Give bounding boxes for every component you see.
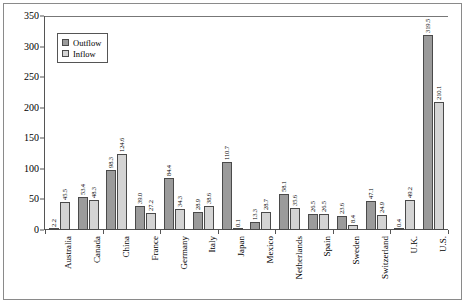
x-axis-category-label: France bbox=[150, 236, 160, 261]
bar-value-label: 47.1 bbox=[367, 188, 374, 199]
bar-chart: 050100150200250300350 2.245.553.448.398.… bbox=[0, 0, 467, 305]
y-axis-tick: 100 bbox=[24, 163, 44, 175]
y-axis-tick: 300 bbox=[24, 41, 44, 53]
bar-value-label: 48.3 bbox=[90, 187, 97, 198]
bar-value-label: 28.7 bbox=[262, 199, 269, 210]
bar-value-label: 110.7 bbox=[223, 146, 230, 160]
bar-value-label: 13.3 bbox=[251, 209, 258, 220]
bar-group: 98.3124.6 bbox=[106, 16, 127, 230]
bar-inflow bbox=[290, 208, 300, 230]
y-axis: 050100150200250300350 bbox=[0, 0, 44, 232]
bar-value-label: 0.1 bbox=[234, 219, 241, 227]
x-axis-category-labels: AustraliaCanadaChinaFranceGermanyItalyJa… bbox=[45, 236, 448, 298]
bar-outflow bbox=[222, 162, 232, 230]
bar-group: 110.70.1 bbox=[222, 16, 243, 230]
bar-outflow bbox=[308, 214, 318, 230]
bar-value-label: 45.5 bbox=[61, 189, 68, 200]
bar-inflow bbox=[89, 200, 99, 230]
x-axis-category-label: Mexico bbox=[265, 236, 275, 264]
x-axis-category-label: Sweden bbox=[351, 236, 361, 265]
bar-outflow bbox=[106, 170, 116, 230]
legend-label-outflow: Outflow bbox=[73, 38, 101, 48]
y-axis-tick: 50 bbox=[29, 193, 44, 205]
bar-value-label: 26.5 bbox=[309, 201, 316, 212]
bar-group: 0.449.2 bbox=[394, 16, 415, 230]
bar-value-label: 35.6 bbox=[291, 195, 298, 206]
bar-inflow bbox=[175, 209, 185, 230]
x-axis-category-label: U.S. bbox=[438, 236, 448, 252]
bar-outflow bbox=[135, 206, 145, 230]
bar-outflow bbox=[193, 212, 203, 230]
bar-outflow bbox=[366, 201, 376, 230]
x-axis-tick-mark bbox=[275, 230, 276, 234]
legend-item-inflow: Inflow bbox=[62, 48, 101, 59]
bar-outflow bbox=[164, 178, 174, 230]
bar-value-label: 39.0 bbox=[136, 193, 143, 204]
x-axis-category-label: China bbox=[121, 236, 131, 258]
x-axis-category-label: Germany bbox=[179, 236, 189, 270]
x-axis-tick-mark bbox=[160, 230, 161, 234]
bar-value-label: 27.2 bbox=[147, 200, 154, 211]
bar-value-label: 319.5 bbox=[424, 19, 431, 33]
bar-inflow bbox=[117, 154, 127, 230]
bar-group: 47.124.9 bbox=[366, 16, 387, 230]
x-axis-tick-mark bbox=[45, 230, 46, 234]
bar-group: 26.526.5 bbox=[308, 16, 329, 230]
bar-value-label: 98.3 bbox=[107, 157, 114, 168]
x-axis-category-label: Netherlands bbox=[294, 236, 304, 279]
x-axis-category-label: U.K. bbox=[409, 236, 419, 254]
bar-group: 39.027.2 bbox=[135, 16, 156, 230]
bar-value-label: 23.6 bbox=[338, 203, 345, 214]
legend-label-inflow: Inflow bbox=[73, 49, 96, 59]
bar-inflow bbox=[434, 102, 444, 230]
bar-value-label: 0.4 bbox=[395, 219, 402, 227]
bar-group: 84.434.3 bbox=[164, 16, 185, 230]
bar-group: 23.68.4 bbox=[337, 16, 358, 230]
x-axis-category-label: Japan bbox=[236, 236, 246, 257]
bar-outflow bbox=[250, 222, 260, 230]
bar-group: 58.135.6 bbox=[279, 16, 300, 230]
bar-outflow bbox=[78, 197, 88, 230]
bar-inflow bbox=[377, 215, 387, 230]
bar-value-label: 84.4 bbox=[165, 165, 172, 176]
x-axis-category-label: Spain bbox=[322, 236, 332, 257]
bar-value-label: 34.3 bbox=[176, 196, 183, 207]
bar-outflow bbox=[337, 216, 347, 230]
y-axis-tick: 250 bbox=[24, 71, 44, 83]
y-axis-tick: 350 bbox=[24, 10, 44, 22]
y-axis-tick: 200 bbox=[24, 102, 44, 114]
bar-value-label: 8.4 bbox=[349, 215, 356, 223]
bar-group: 13.328.7 bbox=[250, 16, 271, 230]
bar-outflow bbox=[423, 35, 433, 230]
y-axis-tick: 150 bbox=[24, 132, 44, 144]
bar-value-label: 38.6 bbox=[205, 193, 212, 204]
bar-inflow bbox=[405, 200, 415, 230]
x-axis-tick-mark bbox=[448, 230, 449, 234]
bar-value-label: 24.9 bbox=[378, 202, 385, 213]
x-axis-tick-mark bbox=[218, 230, 219, 234]
bar-value-label: 2.2 bbox=[50, 219, 57, 227]
legend-item-outflow: Outflow bbox=[62, 37, 101, 48]
x-axis-category-label: Italy bbox=[207, 236, 217, 253]
x-axis-category-label: Switzerland bbox=[380, 236, 390, 279]
bar-value-label: 26.5 bbox=[320, 201, 327, 212]
bar-group: 28.938.6 bbox=[193, 16, 214, 230]
bar-inflow bbox=[261, 212, 271, 230]
legend-swatch-inflow-icon bbox=[62, 50, 69, 57]
bar-group: 319.5210.1 bbox=[423, 16, 444, 230]
legend-swatch-outflow-icon bbox=[62, 39, 69, 46]
bar-value-label: 53.4 bbox=[79, 184, 86, 195]
bar-value-label: 210.1 bbox=[435, 85, 442, 99]
x-axis-tick-mark bbox=[333, 230, 334, 234]
bar-value-label: 49.2 bbox=[406, 187, 413, 198]
chart-legend: Outflow Inflow bbox=[57, 33, 108, 63]
bar-inflow bbox=[319, 214, 329, 230]
x-axis-tick-mark bbox=[103, 230, 104, 234]
x-axis-tick-mark bbox=[390, 230, 391, 234]
bar-value-label: 124.6 bbox=[118, 138, 125, 152]
y-axis-tick: 0 bbox=[34, 224, 44, 236]
bar-value-label: 28.9 bbox=[194, 199, 201, 210]
bar-inflow bbox=[146, 213, 156, 230]
bar-inflow bbox=[60, 202, 70, 230]
bar-inflow bbox=[204, 206, 214, 230]
